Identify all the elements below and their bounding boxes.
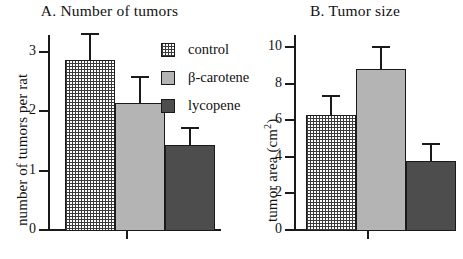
- panel-b-errorbar-lycopene: [430, 145, 432, 161]
- panel-b-errorcap-beta-carotene: [372, 46, 390, 48]
- panel-a-y-axis-label: number of tumors per rat: [14, 74, 31, 226]
- panel-a-errorbar-control: [89, 35, 91, 60]
- panel-b-bar-control: [306, 115, 356, 231]
- panel-b-tick-0: 0: [285, 229, 294, 231]
- panel-a-tick-2: 2: [39, 110, 48, 112]
- panel-a-tick-label-1: 1: [29, 163, 36, 177]
- panel-b-errorcap-control: [322, 95, 340, 97]
- legend-label-control: control: [188, 41, 229, 58]
- panel-a-tick-label-0: 0: [29, 222, 36, 236]
- panel-a-errorcap-lycopene: [181, 127, 199, 129]
- panel-a-tick-label-2: 2: [29, 103, 36, 117]
- panel-b-errorbar-control: [330, 97, 332, 114]
- panel-b-bar-lycopene: [406, 161, 456, 232]
- panel-a: A. Number of tumors number of tumors per…: [0, 0, 231, 259]
- panel-b-tick-4: 4: [285, 156, 294, 158]
- panel-b-tick-label-10: 10: [268, 39, 282, 53]
- legend-swatch-control-icon: [161, 43, 175, 57]
- panel-b-tick-label-0: 0: [275, 222, 282, 236]
- panel-a-errorbar-beta-carotene: [139, 78, 141, 103]
- panel-a-title: A. Number of tumors: [0, 2, 225, 20]
- panel-b-tick-2: 2: [285, 192, 294, 194]
- panel-b-bar-beta-carotene: [356, 69, 406, 231]
- panel-b-plot-area: 0 2 4 6 8 10: [294, 35, 444, 231]
- panel-b-errorbar-beta-carotene: [380, 48, 382, 69]
- panel-a-bar-beta-carotene: [115, 103, 165, 231]
- panel-b-y-axis-label-exponent: 2: [262, 124, 273, 129]
- panel-a-errorbar-lycopene: [189, 129, 191, 145]
- panel-b-tick-6: 6: [285, 119, 294, 121]
- panel-a-y-axis-line: [48, 35, 50, 231]
- panel-a-bar-control: [65, 60, 115, 231]
- panel-a-errorcap-beta-carotene: [131, 76, 149, 78]
- panel-a-bar-lycopene: [165, 145, 215, 231]
- panel-a-tick-label-3: 3: [29, 44, 36, 58]
- panel-b-y-axis-label: tumor area (cm2): [262, 119, 281, 222]
- panel-b-y-axis-label-tail: ): [264, 119, 280, 124]
- panel-a-x-center-tick: [126, 231, 128, 239]
- legend-swatch-beta-carotene-icon: [161, 71, 175, 85]
- legend-swatch-lycopene-icon: [161, 99, 175, 113]
- panel-a-tick-1: 1: [39, 170, 48, 172]
- panel-b-tick-8: 8: [285, 83, 294, 85]
- panel-b-x-center-tick: [367, 231, 369, 239]
- panel-b: B. Tumor size 0 2 4 6 8 10: [231, 0, 463, 259]
- panel-b-tick-label-8: 8: [275, 76, 282, 90]
- panel-b-title: B. Tumor size: [239, 2, 463, 20]
- panel-b-errorcap-lycopene: [422, 143, 440, 145]
- panel-a-tick-0: 0: [39, 229, 48, 231]
- figure-bar-charts: A. Number of tumors number of tumors per…: [0, 0, 463, 259]
- panel-b-y-axis-label-base: tumor area (cm: [264, 129, 280, 222]
- panel-a-tick-3: 3: [39, 51, 48, 53]
- panel-b-tick-10: 10: [285, 46, 294, 48]
- panel-b-y-axis-line: [294, 35, 296, 231]
- panel-a-errorcap-control: [81, 33, 99, 35]
